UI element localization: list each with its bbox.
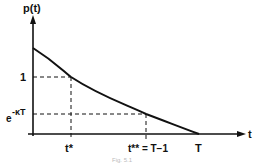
x-axis-arrow-icon (237, 131, 246, 137)
x-tick-T: T (195, 142, 202, 154)
diagram-canvas: p(t) t 1 e -κT t* t** = T−1 T Fig. 5.1 (0, 0, 255, 163)
y-tick-ekt-sup: -κT (12, 107, 26, 117)
x-axis-label: t (248, 128, 252, 140)
figure-caption: Fig. 5.1 (112, 157, 133, 163)
p-curve (33, 48, 199, 134)
y-tick-1: 1 (20, 71, 26, 83)
x-tick-tstarstar: t** = T−1 (128, 143, 168, 154)
y-axis-arrow-icon (30, 15, 36, 24)
x-tick-tstar: t* (65, 142, 74, 154)
y-axis-label: p(t) (23, 2, 41, 14)
